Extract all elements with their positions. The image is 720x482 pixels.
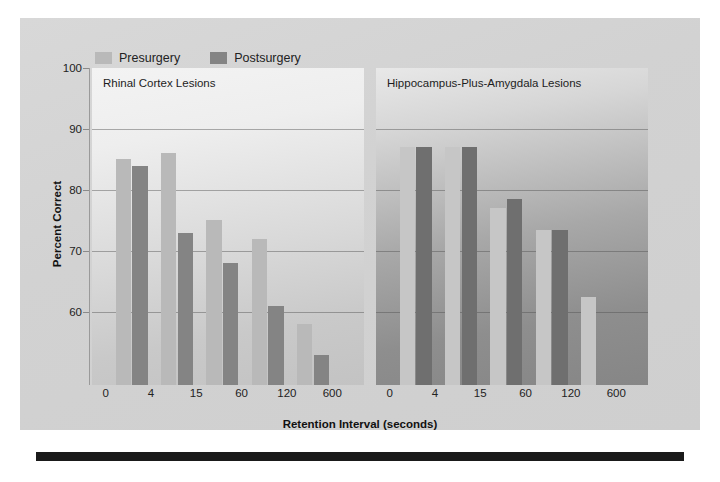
bar-postsurgery [507, 199, 522, 385]
panel-title-hippocampus-amygdala: Hippocampus-Plus-Amygdala Lesions [387, 77, 581, 89]
x-axis-tick-label: 60 [235, 387, 248, 399]
bar-presurgery [206, 220, 221, 385]
bar-postsurgery [416, 147, 431, 385]
x-axis-ticks-right: 041560120600 [376, 387, 648, 405]
bar-presurgery [161, 153, 176, 385]
figure-panel: Presurgery Postsurgery 10090807060 Perce… [20, 18, 700, 430]
y-axis-tick-label: 100 [63, 62, 82, 74]
chart-panel-rhinal-cortex: Rhinal Cortex Lesions [92, 68, 364, 385]
x-axis-tick-label: 120 [277, 387, 296, 399]
x-axis-ticks-left: 041560120600 [92, 387, 364, 405]
bar-presurgery [445, 147, 460, 385]
y-axis-line [89, 68, 90, 385]
bar-presurgery [536, 230, 551, 385]
y-axis-tick-label: 70 [69, 245, 82, 257]
x-axis-tick-label: 4 [432, 387, 438, 399]
y-axis-tick-label: 80 [69, 184, 82, 196]
bar-postsurgery [223, 263, 238, 385]
bar-postsurgery [132, 166, 147, 385]
bar-postsurgery [462, 147, 477, 385]
legend-label-postsurgery: Postsurgery [234, 52, 301, 65]
x-axis-title: Retention Interval (seconds) [20, 418, 700, 430]
bar-postsurgery [178, 233, 193, 385]
bar-postsurgery [268, 306, 283, 385]
legend-item-postsurgery: Postsurgery [210, 52, 301, 65]
bottom-rule [36, 452, 684, 461]
legend-item-presurgery: Presurgery [95, 52, 180, 65]
chart-legend: Presurgery Postsurgery [95, 48, 301, 68]
bars-rhinal-cortex [92, 68, 364, 385]
legend-swatch-postsurgery [210, 52, 227, 64]
x-axis-tick-label: 0 [102, 387, 108, 399]
bars-hippocampus-amygdala [376, 68, 648, 385]
bar-presurgery [581, 297, 596, 385]
x-axis-tick-label: 15 [190, 387, 203, 399]
y-axis-tick-label: 60 [69, 306, 82, 318]
legend-label-presurgery: Presurgery [119, 52, 180, 65]
bar-presurgery [297, 324, 312, 385]
bar-presurgery [252, 239, 267, 385]
bar-postsurgery [314, 355, 329, 385]
x-axis-tick-label: 600 [323, 387, 342, 399]
chart-panel-hippocampus-amygdala: Hippocampus-Plus-Amygdala Lesions [376, 68, 648, 385]
x-axis-tick-label: 600 [607, 387, 626, 399]
bar-presurgery [490, 208, 505, 385]
bar-presurgery [116, 159, 131, 385]
x-axis-tick-label: 120 [561, 387, 580, 399]
panel-title-rhinal-cortex: Rhinal Cortex Lesions [103, 77, 216, 89]
x-axis-tick-label: 0 [386, 387, 392, 399]
y-axis-tick-label: 90 [69, 123, 82, 135]
x-axis-tick-label: 60 [519, 387, 532, 399]
x-axis-tick-label: 15 [474, 387, 487, 399]
x-axis-tick-label: 4 [148, 387, 154, 399]
bar-postsurgery [552, 230, 567, 385]
y-axis-title: Percent Correct [51, 181, 63, 267]
bar-presurgery [400, 147, 415, 385]
